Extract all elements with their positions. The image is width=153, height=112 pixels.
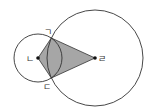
label-digeut: ㄷ: [43, 82, 51, 92]
center-point-rieul: [93, 56, 97, 60]
center-point-nieun: [36, 56, 40, 60]
geometry-diagram: ㄱ ㄴ ㄷ ㄹ: [0, 0, 153, 112]
label-nieun: ㄴ: [26, 54, 34, 64]
diagram-svg: ㄱ ㄴ ㄷ ㄹ: [0, 0, 153, 112]
shaded-kite: [38, 38, 95, 78]
label-giyeok: ㄱ: [44, 27, 52, 37]
label-rieul: ㄹ: [98, 54, 106, 64]
